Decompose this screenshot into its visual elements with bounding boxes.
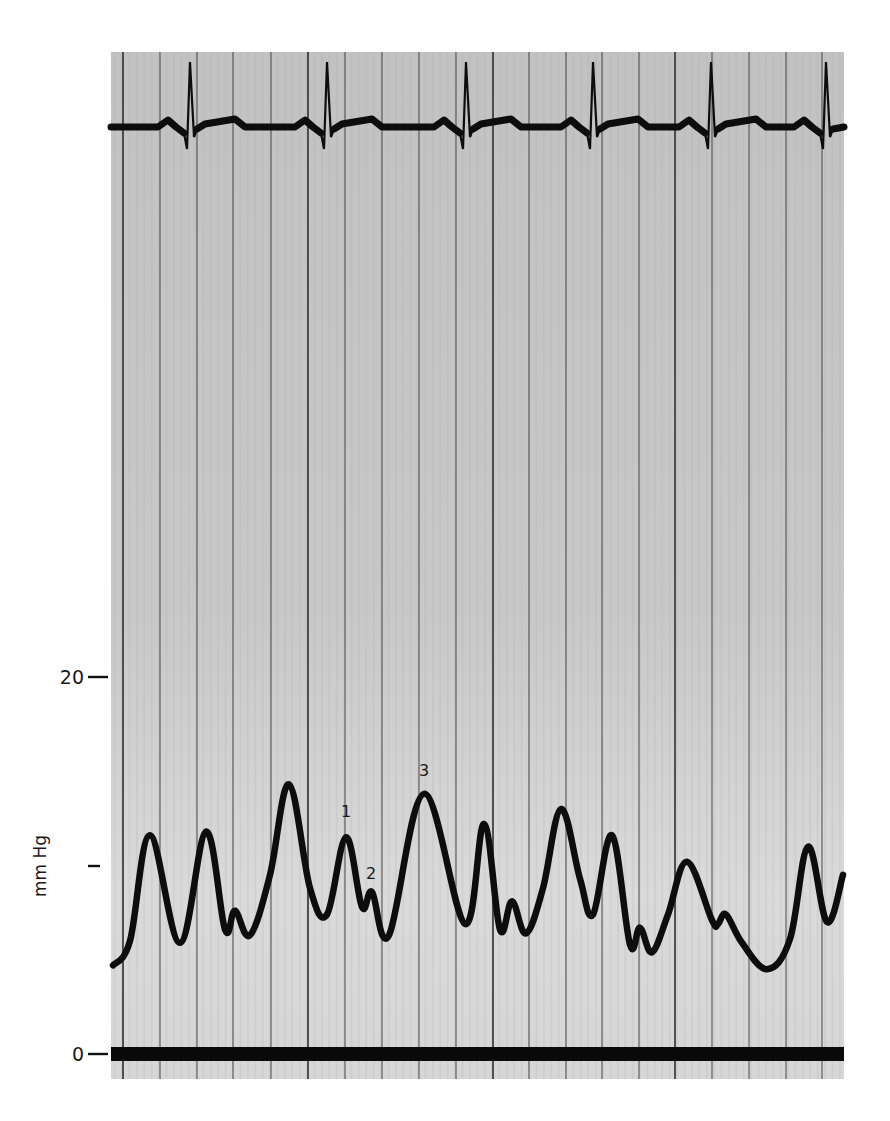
wave-label-1: 1 — [341, 802, 351, 821]
chart-figure: mm Hg 20 0 1 2 3 — [0, 0, 890, 1121]
recorder-strip — [0, 0, 890, 1121]
wave-label-2: 2 — [366, 864, 376, 883]
wave-label-3: 3 — [419, 761, 429, 780]
y-axis-label: mm Hg — [30, 835, 50, 897]
y-axis-ticks — [88, 677, 108, 1054]
y-tick-label-20: 20 — [44, 666, 84, 688]
y-tick-label-0: 0 — [44, 1043, 84, 1065]
zero-baseline — [111, 1047, 844, 1061]
